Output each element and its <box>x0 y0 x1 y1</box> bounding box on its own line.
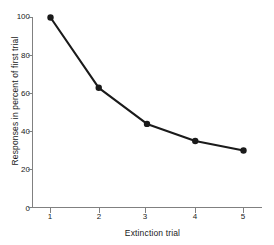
data-point-1 <box>47 14 53 20</box>
data-point-4 <box>192 138 198 144</box>
x-tick-marks <box>51 208 244 213</box>
data-markers <box>47 14 246 153</box>
data-point-5 <box>240 147 246 153</box>
plot-area <box>0 0 274 245</box>
data-line-series-1 <box>51 18 244 151</box>
chart-figure: Responses in percent of first trial Exti… <box>0 0 274 245</box>
data-point-2 <box>96 85 102 91</box>
data-point-3 <box>144 121 150 127</box>
y-tick-marks <box>28 18 32 208</box>
